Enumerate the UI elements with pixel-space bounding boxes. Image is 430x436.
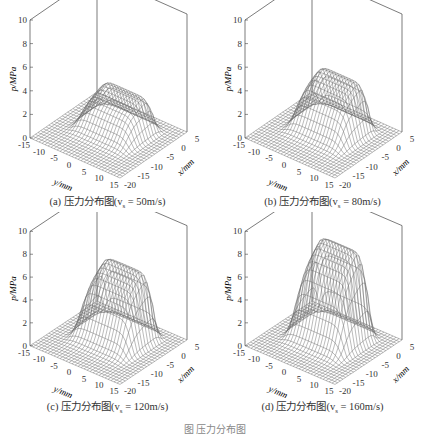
svg-text:-15: -15 bbox=[18, 140, 30, 150]
svg-text:5: 5 bbox=[297, 374, 302, 384]
svg-text:-20: -20 bbox=[339, 386, 351, 396]
chart-panel-d: 0246810p/MPa-15-10-5051015y/mm-20-15-10-… bbox=[215, 212, 430, 424]
caption-a: (a) 压力分布图(vs = 50m/s) bbox=[0, 193, 215, 210]
z-axis: 0246810 bbox=[18, 15, 33, 143]
svg-text:4: 4 bbox=[238, 295, 243, 305]
svg-text:6: 6 bbox=[23, 272, 28, 282]
svg-text:0: 0 bbox=[396, 351, 401, 361]
z-axis-label: p/MPa bbox=[8, 66, 18, 92]
svg-text:15: 15 bbox=[110, 180, 120, 190]
svg-text:10: 10 bbox=[18, 15, 28, 25]
z-axis: 0246810 bbox=[233, 226, 248, 350]
y-axis-label: y/mm bbox=[51, 383, 74, 398]
chart-panel-a: 0246810p/MPa-15-10-5051015y/mm-20-15-10-… bbox=[0, 0, 215, 212]
svg-text:-15: -15 bbox=[233, 348, 245, 358]
svg-text:4: 4 bbox=[238, 86, 243, 96]
chart-panel-b: 0246810p/MPa-15-10-5051015y/mm-20-15-10-… bbox=[215, 0, 430, 212]
plot-area bbox=[30, 0, 187, 178]
y-axis-label: y/mm bbox=[51, 176, 74, 192]
svg-text:2: 2 bbox=[23, 109, 28, 119]
surface-plot-b: 0246810p/MPa-15-10-5051015y/mm-20-15-10-… bbox=[215, 0, 430, 192]
z-axis: 0246810 bbox=[233, 15, 248, 143]
svg-text:-5: -5 bbox=[265, 153, 273, 163]
svg-text:-5: -5 bbox=[166, 360, 174, 370]
svg-text:-10: -10 bbox=[33, 147, 45, 157]
svg-text:0: 0 bbox=[181, 351, 186, 361]
caption-text: = 160m/s) bbox=[338, 401, 384, 412]
svg-text:5: 5 bbox=[82, 374, 87, 384]
svg-text:2: 2 bbox=[238, 109, 243, 119]
svg-text:4: 4 bbox=[23, 295, 28, 305]
svg-text:8: 8 bbox=[23, 39, 28, 49]
caption-text: (d) 压力分布图(v bbox=[262, 401, 336, 412]
surface-plot-a: 0246810p/MPa-15-10-5051015y/mm-20-15-10-… bbox=[0, 0, 215, 192]
svg-text:-15: -15 bbox=[137, 378, 149, 388]
svg-text:10: 10 bbox=[95, 380, 105, 390]
caption-text: (c) 压力分布图(v bbox=[47, 401, 120, 412]
svg-text:-10: -10 bbox=[151, 369, 163, 379]
svg-text:6: 6 bbox=[238, 62, 243, 72]
x-axis-label: x/mm bbox=[174, 156, 196, 178]
x-axis-label: x/mm bbox=[174, 363, 196, 385]
svg-text:-5: -5 bbox=[50, 361, 58, 371]
svg-text:-15: -15 bbox=[352, 171, 364, 181]
svg-text:2: 2 bbox=[23, 318, 28, 328]
svg-text:-20: -20 bbox=[339, 180, 351, 190]
svg-text:-10: -10 bbox=[248, 147, 260, 157]
y-axis-label: y/mm bbox=[266, 176, 289, 192]
svg-text:5: 5 bbox=[297, 167, 302, 177]
plot-area bbox=[30, 212, 187, 384]
caption-text: = 120m/s) bbox=[123, 401, 169, 412]
y-axis-label: y/mm bbox=[266, 383, 289, 398]
z-axis-label: p/MPa bbox=[223, 66, 233, 92]
caption-d: (d) 压力分布图(vs = 160m/s) bbox=[215, 398, 430, 415]
svg-text:-5: -5 bbox=[265, 361, 273, 371]
svg-text:-15: -15 bbox=[233, 140, 245, 150]
svg-text:-10: -10 bbox=[366, 162, 378, 172]
svg-text:-20: -20 bbox=[124, 386, 136, 396]
svg-text:-5: -5 bbox=[381, 152, 389, 162]
x-axis-label: x/mm bbox=[389, 363, 411, 385]
caption-text: (a) 压力分布图(v bbox=[49, 196, 122, 207]
svg-text:8: 8 bbox=[23, 249, 28, 259]
svg-text:-5: -5 bbox=[381, 360, 389, 370]
caption-text: = 50m/s) bbox=[125, 196, 165, 207]
caption-text: = 80m/s) bbox=[341, 196, 381, 207]
svg-text:10: 10 bbox=[18, 226, 28, 236]
svg-text:15: 15 bbox=[325, 386, 335, 396]
svg-text:5: 5 bbox=[195, 134, 200, 144]
svg-text:0: 0 bbox=[181, 143, 186, 153]
svg-text:15: 15 bbox=[325, 180, 335, 190]
svg-text:4: 4 bbox=[23, 86, 28, 96]
svg-text:-10: -10 bbox=[248, 354, 260, 364]
svg-text:0: 0 bbox=[282, 160, 287, 170]
svg-text:-5: -5 bbox=[50, 153, 58, 163]
svg-text:15: 15 bbox=[110, 386, 120, 396]
svg-text:0: 0 bbox=[67, 160, 72, 170]
svg-text:10: 10 bbox=[310, 173, 320, 183]
svg-text:0: 0 bbox=[396, 143, 401, 153]
caption-c: (c) 压力分布图(vs = 120m/s) bbox=[0, 398, 215, 415]
svg-text:-20: -20 bbox=[124, 180, 136, 190]
plot-area bbox=[245, 212, 402, 384]
svg-text:8: 8 bbox=[238, 39, 243, 49]
svg-text:10: 10 bbox=[95, 173, 105, 183]
z-axis-label: p/MPa bbox=[8, 276, 18, 302]
svg-text:6: 6 bbox=[23, 62, 28, 72]
svg-text:-15: -15 bbox=[18, 348, 30, 358]
svg-text:5: 5 bbox=[410, 134, 415, 144]
svg-text:5: 5 bbox=[82, 167, 87, 177]
svg-text:-15: -15 bbox=[137, 171, 149, 181]
svg-text:6: 6 bbox=[238, 272, 243, 282]
svg-text:-10: -10 bbox=[151, 162, 163, 172]
figure-caption: 图 压力分布图 bbox=[0, 421, 430, 436]
z-axis-label: p/MPa bbox=[223, 276, 233, 302]
svg-text:-15: -15 bbox=[352, 378, 364, 388]
svg-text:0: 0 bbox=[282, 367, 287, 377]
caption-text: (b) 压力分布图(v bbox=[264, 196, 338, 207]
svg-text:-10: -10 bbox=[33, 354, 45, 364]
caption-b: (b) 压力分布图(vs = 80m/s) bbox=[215, 193, 430, 210]
svg-text:-5: -5 bbox=[166, 152, 174, 162]
svg-text:5: 5 bbox=[410, 342, 415, 352]
svg-text:8: 8 bbox=[238, 249, 243, 259]
